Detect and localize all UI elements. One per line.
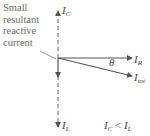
condition-ic-less-than-il: IC < IL xyxy=(104,119,132,133)
label-ic: IC xyxy=(62,4,70,18)
label-itot: Itot xyxy=(134,71,145,85)
angle-theta: θ xyxy=(109,56,114,68)
label-il: IL xyxy=(62,119,70,133)
phasor-diagram xyxy=(0,0,150,136)
annotation-leader-line xyxy=(40,51,56,59)
itot-phasor xyxy=(58,58,132,76)
label-ir: IR xyxy=(134,53,142,67)
